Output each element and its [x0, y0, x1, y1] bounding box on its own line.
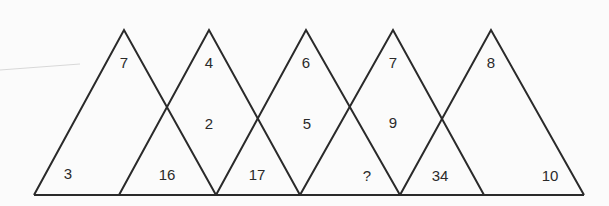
- scan-artifact-line: [0, 64, 80, 70]
- triangle-3-middle-number: 5: [303, 115, 311, 132]
- triangle-3-top-number: 6: [302, 54, 310, 71]
- overlap-1-2-number: 16: [159, 166, 176, 183]
- triangle-puzzle: 7 3 4 2 16 6 5 17 7 9 ? 8 34 10: [0, 0, 609, 206]
- triangle-2-middle-number: 2: [205, 115, 213, 132]
- triangle-5-bottom-number: 10: [542, 167, 559, 184]
- overlap-3-4-unknown: ?: [363, 167, 371, 184]
- overlap-4-5-number: 34: [432, 167, 449, 184]
- triangle-5-top-number: 8: [487, 54, 495, 71]
- triangle-1-top-number: 7: [120, 54, 128, 71]
- triangle-2-top-number: 4: [205, 54, 213, 71]
- overlap-2-3-number: 17: [249, 166, 266, 183]
- triangle-4-middle-number: 9: [389, 114, 397, 131]
- triangle-1-bottom-number: 3: [64, 165, 72, 182]
- triangle-4-top-number: 7: [389, 54, 397, 71]
- triangles-drawing: [0, 0, 609, 206]
